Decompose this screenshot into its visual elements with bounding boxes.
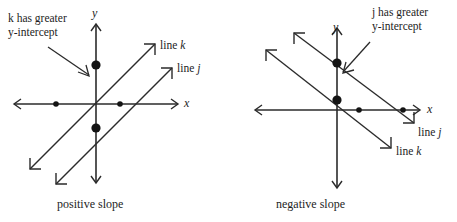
annotation-line2-right: y-intercept <box>372 20 422 34</box>
line-k-y-intercept-dot <box>91 60 100 69</box>
annotation-line2-left: y-intercept <box>8 26 58 40</box>
annotation-line1-left: k has greater <box>8 12 67 26</box>
line-k-y-intercept-dot <box>332 95 341 104</box>
slope-intercept-figure: k has greater y-intercept y x line k lin… <box>0 0 457 222</box>
caption-left: positive slope <box>57 197 123 212</box>
x-axis-label-left: x <box>184 97 189 110</box>
line-k-x-intercept-dot <box>53 101 59 107</box>
line-j-y-intercept-dot <box>332 58 341 67</box>
negative-slope-graph <box>228 0 457 222</box>
caption-right: negative slope <box>276 197 345 212</box>
line-j-label-left: line j <box>177 62 200 75</box>
x-axis-label-right: x <box>427 103 432 116</box>
line-j-x-intercept-dot <box>400 107 406 113</box>
negative-slope-panel: j has greater y-intercept y x line j lin… <box>228 0 457 222</box>
positive-slope-panel: k has greater y-intercept y x line k lin… <box>0 0 228 222</box>
y-axis-label-left: y <box>92 7 97 20</box>
line-k-x-intercept-dot <box>356 107 362 113</box>
line-j-x-intercept-dot <box>117 101 123 107</box>
y-axis-label-right: y <box>333 21 338 34</box>
annotation-arrow-right <box>343 42 370 73</box>
line-k-right <box>266 50 391 148</box>
line-j-label-right: line j <box>418 126 441 139</box>
line-k-label-left: line k <box>160 39 185 52</box>
annotation-line1-right: j has greater <box>372 6 428 20</box>
line-k-label-right: line k <box>396 145 421 158</box>
annotation-arrow-left <box>48 47 89 76</box>
line-j-y-intercept-dot <box>91 123 100 132</box>
